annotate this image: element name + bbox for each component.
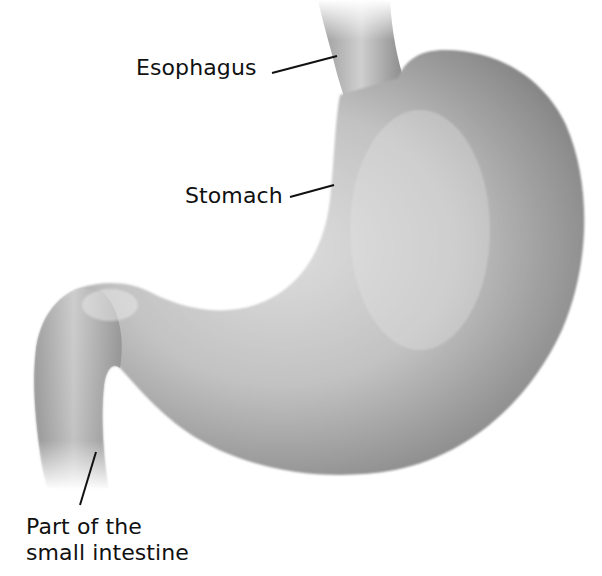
small-intestine-label-line1: Part of the — [26, 514, 189, 540]
stomach-label: Stomach — [185, 183, 283, 209]
diagram-stage: Esophagus Stomach Part of the small inte… — [0, 0, 602, 576]
small-intestine-label: Part of the small intestine — [26, 514, 189, 566]
small-intestine-label-line2: small intestine — [26, 540, 189, 566]
stomach-shape — [34, 50, 584, 488]
stomach-illustration — [0, 0, 602, 576]
stomach-leader-line — [290, 185, 334, 197]
esophagus-label: Esophagus — [136, 55, 256, 81]
esophagus-leader-line — [272, 56, 337, 73]
